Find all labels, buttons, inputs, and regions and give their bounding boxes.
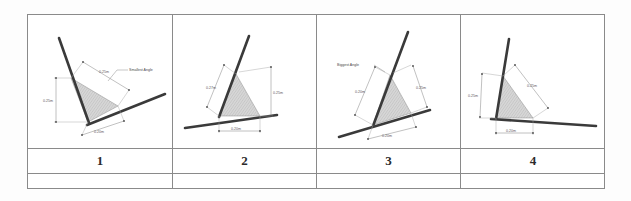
- worksheet-table: 0.25m 0.25m 0.20m Smallest Angle: [27, 14, 605, 189]
- dimension-line-1a: [83, 62, 129, 90]
- dimension-label-3a: 0.20m: [355, 90, 365, 94]
- dimension-label-1b: 0.25m: [43, 99, 53, 103]
- dimension-label-1c: 0.20m: [94, 130, 104, 134]
- dimension-line-3c: [368, 127, 416, 139]
- geometry-figure-1: 0.25m 0.25m 0.20m Smallest Angle: [28, 15, 172, 148]
- answer-cell-1[interactable]: [28, 173, 172, 188]
- dimension-label-3b: 0.25m: [416, 86, 426, 90]
- dimension-label-4c: 0.20m: [506, 129, 516, 133]
- geometry-figure-2: 0.27m 0.25m 0.20m: [173, 15, 316, 148]
- diagram-cell-1: 0.25m 0.25m 0.20m Smallest Angle: [28, 15, 172, 148]
- dimension-label-2a: 0.27m: [206, 86, 216, 90]
- number-cell-3: 3: [317, 148, 460, 173]
- annotation-leader-3: [374, 65, 385, 72]
- dimension-label-4b: 0.25m: [527, 84, 537, 88]
- dimension-label-2b: 0.25m: [273, 91, 283, 95]
- dimension-line-4a: [480, 74, 482, 117]
- annotation-label-1: Smallest Angle: [129, 68, 153, 72]
- dimension-label-1a: 0.25m: [99, 70, 109, 74]
- panel-number-4: 4: [530, 153, 537, 169]
- number-cell-4: 4: [461, 148, 605, 173]
- diagram-cell-4: 0.25m 0.25m 0.20m: [461, 15, 605, 148]
- panel-number-3: 3: [385, 153, 392, 169]
- diagram-cell-3: 0.20m 0.25m 0.20m Biggest Angle: [317, 15, 460, 148]
- number-cell-1: 1: [28, 148, 172, 173]
- geometry-figure-3: 0.20m 0.25m 0.20m Biggest Angle: [317, 15, 460, 148]
- geometry-figure-4: 0.25m 0.25m 0.20m: [461, 15, 605, 148]
- dimension-label-4a: 0.25m: [468, 94, 478, 98]
- answer-cell-2[interactable]: [173, 173, 316, 188]
- dimension-label-2c: 0.20m: [231, 127, 241, 131]
- answer-cell-3[interactable]: [317, 173, 460, 188]
- number-cell-2: 2: [173, 148, 316, 173]
- diagram-cell-2: 0.27m 0.25m 0.20m: [173, 15, 316, 148]
- dimension-label-3c: 0.20m: [382, 134, 392, 138]
- answer-cell-4[interactable]: [461, 173, 605, 188]
- worksheet-page: 0.25m 0.25m 0.20m Smallest Angle: [0, 0, 631, 201]
- rod-bottom-4: [491, 119, 596, 126]
- annotation-label-3: Biggest Angle: [337, 63, 359, 67]
- rod-left-1: [59, 38, 89, 123]
- panel-number-2: 2: [241, 153, 248, 169]
- panel-number-1: 1: [97, 153, 104, 169]
